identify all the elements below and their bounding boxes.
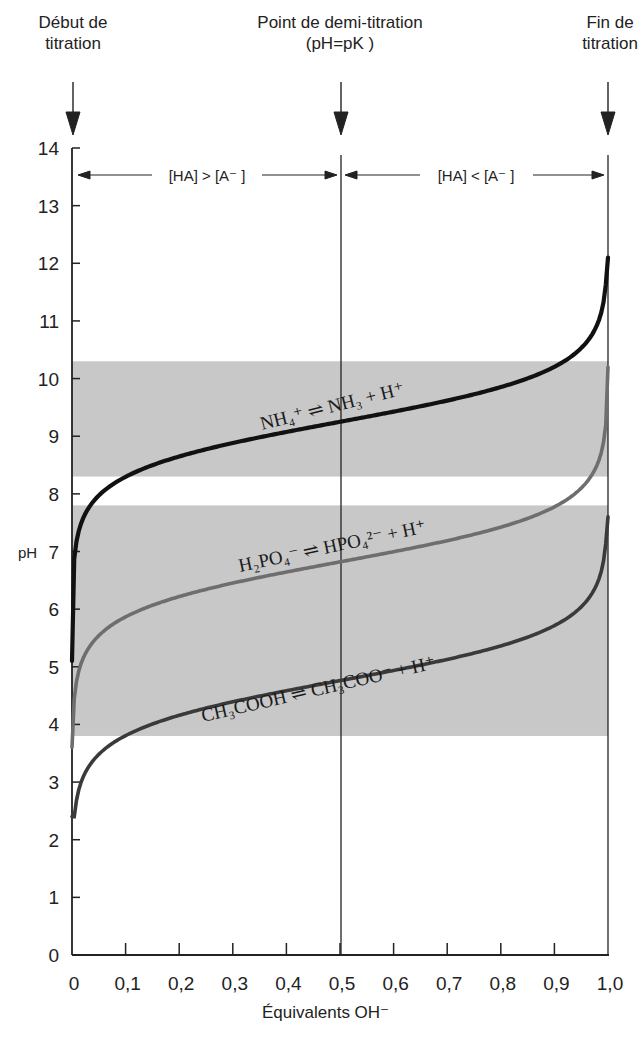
x-tick-label: 0 — [69, 973, 80, 994]
x-tick-label: 0,3 — [222, 973, 248, 994]
y-tick-label: 11 — [39, 311, 59, 332]
y-tick-label: 4 — [48, 714, 59, 735]
arrow-down-icon — [601, 112, 615, 135]
y-tick-label: 1 — [48, 887, 59, 908]
x-tick-label: 0,5 — [329, 973, 355, 994]
x-tick-label: 0,9 — [543, 973, 569, 994]
y-tick-label: 2 — [48, 830, 59, 851]
y-tick-label: 5 — [48, 657, 59, 678]
arrow-down-icon — [334, 112, 348, 135]
y-tick-label: 12 — [38, 253, 59, 274]
region-label-right: [HA] < [A⁻ ] — [438, 167, 515, 184]
x-tick-label: 0,4 — [275, 973, 302, 994]
x-tick-label: 1,0 — [597, 973, 623, 994]
arrow-down-icon — [66, 112, 80, 135]
x-tick-label: 0,7 — [436, 973, 462, 994]
top-arrows — [66, 82, 615, 135]
y-tick-label: 13 — [38, 196, 59, 217]
y-tick-label: 6 — [48, 599, 59, 620]
y-tick-label: 9 — [48, 426, 59, 447]
y-tick-label: 7 — [48, 542, 59, 563]
x-ticks: 00,10,20,30,40,50,60,70,80,91,0 — [69, 943, 624, 994]
x-tick-label: 0,6 — [382, 973, 408, 994]
x-tick-label: 0,8 — [490, 973, 516, 994]
y-tick-label: 0 — [48, 945, 59, 966]
y-axis-label: pH — [18, 544, 37, 561]
region-label-left: [HA] > [A⁻ ] — [169, 167, 246, 184]
y-tick-label: 10 — [38, 369, 59, 390]
y-tick-label: 14 — [38, 138, 60, 159]
x-tick-label: 0,2 — [168, 973, 194, 994]
y-tick-label: 3 — [48, 772, 59, 793]
x-axis-label: Équivalents OH⁻ — [262, 1002, 389, 1023]
y-tick-label: 8 — [48, 484, 59, 505]
x-tick-label: 0,1 — [114, 973, 140, 994]
